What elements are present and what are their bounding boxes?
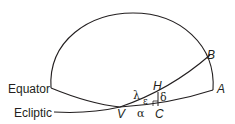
point-c-label: C [155, 107, 164, 121]
equator-curve [51, 88, 213, 107]
alpha-label: α [137, 107, 145, 120]
lambda-label: λ [133, 89, 140, 102]
delta-label: δ [160, 91, 167, 104]
ecliptic-curve [54, 55, 210, 112]
epsilon-label: ε [143, 96, 148, 106]
meridian-arc [51, 13, 213, 90]
ecliptic-label: Ecliptic [14, 106, 52, 120]
point-v-label: V [117, 107, 126, 121]
point-b-label: B [207, 48, 215, 62]
equator-label: Equator [8, 82, 50, 96]
celestial-diagram: Equator Ecliptic B A H V C λ ε δ α [0, 0, 235, 124]
point-a-label: A [216, 82, 225, 96]
